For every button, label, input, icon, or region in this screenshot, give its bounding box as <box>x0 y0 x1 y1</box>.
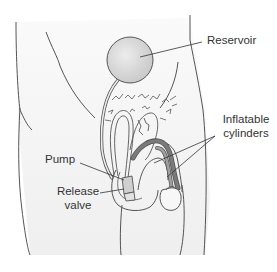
release-label-line1: Release <box>55 185 101 198</box>
inflatable-label-line2: cylinders <box>218 127 274 140</box>
release-label-line2: valve <box>55 199 101 212</box>
prosthesis-diagram: Reservoir Inflatable cylinders Pump Rele… <box>0 0 277 272</box>
pump <box>122 176 134 194</box>
glans <box>160 188 181 211</box>
release-valve <box>124 192 135 201</box>
inflatable-label-line1: Inflatable <box>218 113 274 126</box>
reservoir-label: Reservoir <box>207 34 256 47</box>
pump-label: Pump <box>45 153 75 166</box>
reservoir-balloon <box>107 37 153 83</box>
